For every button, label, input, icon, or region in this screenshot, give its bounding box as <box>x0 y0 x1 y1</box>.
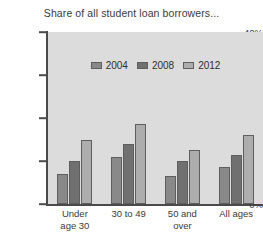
legend-item-2004: 2004 <box>91 60 128 71</box>
legend-item-2008: 2008 <box>137 60 174 71</box>
bar-2008-all-ages <box>231 155 242 204</box>
y-axis-tick-mark <box>39 31 47 33</box>
bar-2012-all-ages <box>243 135 254 204</box>
legend-swatch-icon <box>91 62 102 69</box>
bar-group <box>219 32 254 204</box>
legend-label: 2004 <box>106 60 128 71</box>
x-axis-category-line: age 30 <box>45 220 105 232</box>
y-axis-tick-mark <box>39 117 47 119</box>
bar-2012-under-age-30 <box>81 140 92 205</box>
legend-label: 2012 <box>198 60 220 71</box>
bar-2004-under-age-30 <box>57 174 68 204</box>
x-axis-category-label: Underage 30 <box>45 208 105 231</box>
x-axis-category-line: 30 to 49 <box>99 208 159 220</box>
legend-label: 2008 <box>152 60 174 71</box>
bar-group <box>111 32 146 204</box>
legend-swatch-icon <box>137 62 148 69</box>
legend-item-2012: 2012 <box>183 60 220 71</box>
x-axis-category-label: 50 andover <box>152 208 212 231</box>
bar-2012-50-and-over <box>189 150 200 204</box>
x-axis-category-line: over <box>152 220 212 232</box>
bar-2004-30-to-49 <box>111 157 122 204</box>
y-axis-tick-mark <box>39 203 47 205</box>
plot-area <box>48 32 263 204</box>
bar-group <box>57 32 92 204</box>
chart-legend: 200420082012 <box>48 60 263 71</box>
x-axis-category-label: All ages <box>206 208 263 220</box>
chart-title: Share of all student loan borrowers... <box>0 7 263 19</box>
bar-2004-50-and-over <box>165 176 176 204</box>
bar-2004-all-ages <box>219 167 230 204</box>
y-axis-tick-mark <box>39 160 47 162</box>
bar-2008-under-age-30 <box>69 161 80 204</box>
x-axis-category-line: 50 and <box>152 208 212 220</box>
x-axis-category-label: 30 to 49 <box>99 208 159 220</box>
y-axis-tick-mark <box>39 74 47 76</box>
bar-2008-30-to-49 <box>123 144 134 204</box>
legend-swatch-icon <box>183 62 194 69</box>
x-axis-category-line: All ages <box>206 208 263 220</box>
bar-2008-50-and-over <box>177 161 188 204</box>
bar-2012-30-to-49 <box>135 124 146 204</box>
bar-chart-figure: Share of all student loan borrowers... 0… <box>0 0 263 246</box>
bar-group <box>165 32 200 204</box>
x-axis-category-line: Under <box>45 208 105 220</box>
